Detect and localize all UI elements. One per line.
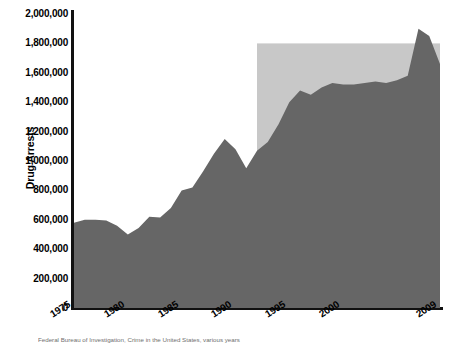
source-caption: Federal Bureau of Investigation, Crime i… — [38, 336, 451, 343]
y-axis-tick-label: 1,600,000 — [2, 68, 68, 78]
chart-svg — [74, 14, 440, 308]
y-axis-tick-label: 1,800,000 — [2, 38, 68, 48]
y-axis-tick-label: 1,400,000 — [2, 97, 68, 107]
y-axis-tick-label: 1,200,000 — [2, 127, 68, 137]
plot-area — [74, 14, 440, 308]
y-axis-tick-label: 600,000 — [2, 215, 68, 225]
y-axis-tick-label: 200,000 — [2, 274, 68, 284]
y-axis-tick-labels: 2,000,0001,800,0001,600,0001,400,0001,20… — [0, 0, 68, 347]
y-axis-tick-label: 1,000,000 — [2, 156, 68, 166]
y-axis-tick-label: 2,000,000 — [2, 9, 68, 19]
drug-arrests-area-chart: Drug Arrests 2,000,0001,800,0001,600,000… — [0, 0, 451, 347]
y-axis-tick-label: 400,000 — [2, 244, 68, 254]
y-axis-tick-label: 800,000 — [2, 185, 68, 195]
